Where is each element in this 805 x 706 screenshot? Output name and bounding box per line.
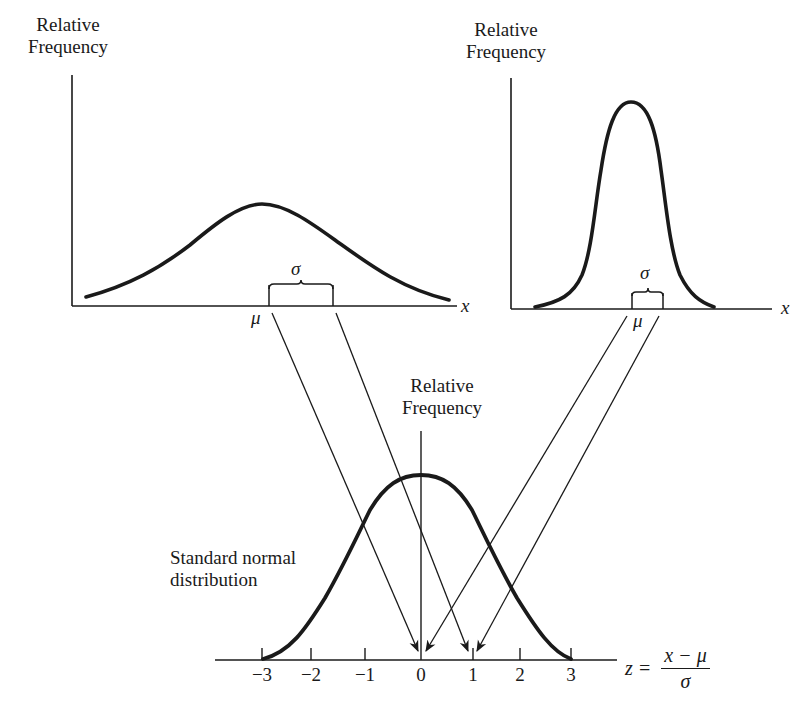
tick-label: −1 bbox=[355, 664, 375, 686]
right-narrow-normal-curve bbox=[535, 102, 714, 307]
left-wide-normal-curve bbox=[86, 204, 449, 300]
right-ylabel: Relative Frequency bbox=[456, 19, 556, 63]
tick-label: −3 bbox=[252, 664, 272, 686]
left-ylabel-line2: Frequency bbox=[18, 36, 118, 58]
standard-normal-label-line2: distribution bbox=[170, 569, 296, 591]
left-x-label: x bbox=[461, 295, 469, 317]
right-sigma-label: σ bbox=[640, 262, 649, 284]
right-mu-label: μ bbox=[633, 310, 643, 332]
formula-lhs: z = bbox=[625, 657, 651, 680]
left-sigma-brace bbox=[269, 280, 333, 289]
standard-normal-label: Standard normal distribution bbox=[170, 547, 296, 591]
tick-label: −2 bbox=[301, 664, 321, 686]
bottom-ylabel: Relative Frequency bbox=[387, 375, 497, 419]
right-ylabel-line2: Frequency bbox=[456, 41, 556, 63]
standard-normal-plot bbox=[215, 431, 617, 660]
standard-normal-label-line1: Standard normal bbox=[170, 547, 296, 569]
formula-fraction: x − μ σ bbox=[661, 644, 709, 693]
left-distribution-plot bbox=[72, 75, 457, 306]
arrow-right-sigma-to-one bbox=[477, 316, 659, 651]
tick-label: 2 bbox=[515, 664, 525, 686]
standard-normal-curve bbox=[263, 475, 571, 659]
arrow-right-mu-to-zero bbox=[426, 316, 627, 651]
z-ticks bbox=[262, 648, 571, 660]
left-ylabel: Relative Frequency bbox=[18, 14, 118, 58]
right-ylabel-line1: Relative bbox=[456, 19, 556, 41]
left-mu-label: μ bbox=[251, 307, 261, 329]
tick-label: 3 bbox=[566, 664, 576, 686]
formula-denominator: σ bbox=[681, 669, 691, 693]
left-ylabel-line1: Relative bbox=[18, 14, 118, 36]
right-x-label: x bbox=[781, 297, 789, 319]
right-sigma-brace bbox=[632, 288, 663, 296]
mapping-arrows bbox=[272, 313, 659, 651]
bottom-ylabel-line1: Relative bbox=[387, 375, 497, 397]
tick-label: 0 bbox=[416, 664, 426, 686]
formula-numerator: x − μ bbox=[661, 644, 709, 669]
tick-label: 1 bbox=[468, 664, 478, 686]
diagram-canvas bbox=[0, 0, 805, 706]
left-sigma-label: σ bbox=[291, 258, 300, 280]
bottom-ylabel-line2: Frequency bbox=[387, 397, 497, 419]
z-score-formula: z = x − μ σ bbox=[625, 644, 710, 693]
